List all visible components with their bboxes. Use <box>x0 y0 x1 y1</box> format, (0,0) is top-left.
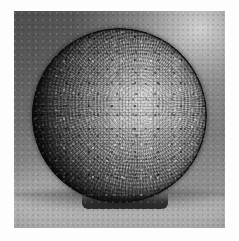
plate-foot-contact <box>82 193 168 209</box>
photo-alt-text: Black and white photograph of a circular… <box>0 0 1 1</box>
plate-outer-edge <box>32 28 207 203</box>
page-root: Black and white photograph of a circular… <box>0 0 239 241</box>
plate-body <box>32 28 207 203</box>
photograph <box>14 11 225 228</box>
mosaic-plate <box>32 28 207 203</box>
